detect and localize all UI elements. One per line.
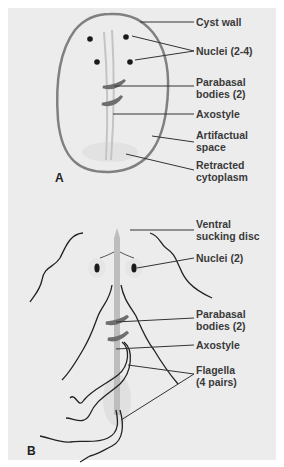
nucleus-a3 xyxy=(94,59,100,65)
parabasal-a2 xyxy=(102,96,122,105)
nucleus-a4 xyxy=(127,59,133,65)
nucleus-a1 xyxy=(87,36,93,42)
label-axostyle-b: Axostyle xyxy=(196,339,240,351)
axostyle-a xyxy=(104,32,107,160)
panel-b-trophozoite xyxy=(30,228,212,462)
label-retracted-cytoplasm: Retracted cytoplasm xyxy=(196,159,248,183)
label-ventral-sucking-disc: Ventral sucking disc xyxy=(196,218,260,242)
label-parabasal-a: Parabasal bodies (2) xyxy=(196,76,246,100)
label-flagella: Flagella (4 pairs) xyxy=(196,364,237,388)
body-outline-right xyxy=(150,233,212,298)
label-cyst-wall: Cyst wall xyxy=(196,16,242,28)
label-nuclei-a: Nuclei (2-4) xyxy=(196,45,253,57)
body-edge-right xyxy=(121,285,178,384)
nucleus-b2 xyxy=(131,264,136,273)
panel-a-cyst xyxy=(57,14,194,172)
label-nuclei-b: Nuclei (2) xyxy=(196,252,243,264)
nucleus-b1 xyxy=(94,264,99,273)
label-artifactual-space: Artifactual space xyxy=(196,129,248,153)
body-outline-left xyxy=(30,233,83,302)
nucleus-a2 xyxy=(123,34,129,40)
retracted-cytoplasm xyxy=(82,142,138,162)
panel-letter-b: B xyxy=(27,444,36,458)
body-edge-left xyxy=(62,285,112,380)
label-parabasal-b: Parabasal bodies (2) xyxy=(196,308,246,332)
label-axostyle-a: Axostyle xyxy=(196,108,240,120)
panel-letter-a: A xyxy=(55,171,64,185)
